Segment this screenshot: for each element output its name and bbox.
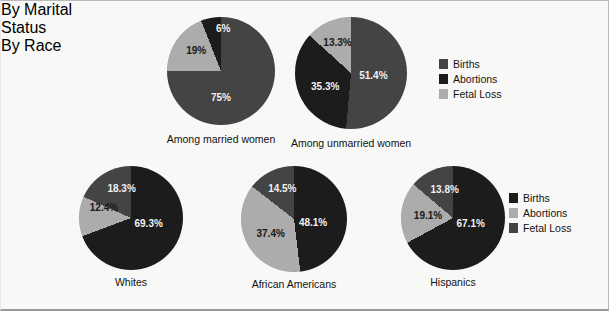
legend-label-births: Births: [453, 58, 480, 70]
pie-caption-african-americans: African Americans: [204, 278, 384, 290]
slice-label-abortions: 12.4%: [90, 201, 118, 212]
legend-item-births: Births: [509, 191, 571, 204]
pie-chart-married-women: 75% 19% 6% Among married women: [167, 17, 275, 125]
slice-label-fetal-loss: 19%: [186, 45, 206, 56]
section-heading-line-1: By Marital: [1, 1, 91, 19]
pie-graphic-unmarried-women: 51.4% 35.3% 13.3%: [295, 17, 407, 129]
chart-figure: By Marital Status 75% 19% 6% Among marri…: [0, 0, 609, 311]
pie-graphic-african-americans: 48.1% 37.4% 14.5%: [241, 166, 347, 272]
slice-label-fetal-loss: 13.3%: [323, 36, 351, 47]
legend-item-fetal-loss: Fetal Loss: [439, 87, 501, 100]
legend-marital-status: Births Abortions Fetal Loss: [439, 57, 501, 102]
pie-caption-whites: Whites: [41, 276, 221, 288]
section-heading-race: By Race: [1, 37, 91, 55]
legend-item-abortions: Abortions: [509, 206, 571, 219]
slice-label-fetal-loss: 18.3%: [107, 182, 135, 193]
legend-swatch-fetal-loss: [439, 89, 448, 99]
legend-swatch-births: [509, 193, 518, 203]
slice-label-births: 67.1%: [456, 218, 484, 229]
legend-item-births: Births: [439, 57, 501, 70]
legend-swatch-abortions: [439, 74, 448, 84]
slice-label-births: 51.4%: [359, 70, 387, 81]
slice-label-fetal-loss: 14.5%: [268, 183, 296, 194]
legend-item-fetal-loss: Fetal Loss: [509, 221, 571, 234]
pie-chart-whites: 69.3% 12.4% 18.3% Whites: [79, 166, 183, 270]
slice-label-births: 48.1%: [299, 217, 327, 228]
pie-caption-unmarried-women: Among unmarried women: [262, 137, 440, 149]
slice-label-abortions: 19.1%: [414, 209, 442, 220]
legend-item-abortions: Abortions: [439, 72, 501, 85]
legend-label-abortions: Abortions: [453, 73, 497, 85]
slice-label-abortions: 37.4%: [256, 227, 284, 238]
legend-swatch-births: [439, 59, 448, 69]
legend-label-births: Births: [523, 192, 550, 204]
section-heading-line-1: By Race: [1, 37, 91, 55]
section-heading-marital-status: By Marital Status: [1, 1, 91, 37]
pie-graphic-married-women: 75% 19% 6%: [167, 17, 275, 125]
pie-graphic-whites: 69.3% 12.4% 18.3%: [79, 166, 183, 270]
legend-label-fetal-loss: Fetal Loss: [453, 88, 501, 100]
legend-swatch-abortions: [509, 208, 518, 218]
pie-graphic-hispanics: 67.1% 19.1% 13.8%: [401, 166, 505, 270]
section-heading-line-2: Status: [1, 19, 91, 37]
pie-chart-unmarried-women: 51.4% 35.3% 13.3% Among unmarried women: [295, 17, 407, 129]
slice-label-abortions: 35.3%: [311, 81, 339, 92]
legend-label-fetal-loss: Fetal Loss: [523, 222, 571, 234]
legend-swatch-fetal-loss: [509, 223, 518, 233]
pie-chart-african-americans: 48.1% 37.4% 14.5% African Americans: [241, 166, 347, 272]
pie-caption-hispanics: Hispanics: [363, 276, 543, 288]
slice-label-abortions: 6%: [216, 22, 230, 33]
legend-race: Births Abortions Fetal Loss: [509, 191, 571, 236]
pie-chart-hispanics: 67.1% 19.1% 13.8% Hispanics: [401, 166, 505, 270]
slice-label-births: 69.3%: [134, 218, 162, 229]
slice-label-births: 75%: [211, 91, 231, 102]
slice-label-fetal-loss: 13.8%: [430, 183, 458, 194]
legend-label-abortions: Abortions: [523, 207, 567, 219]
